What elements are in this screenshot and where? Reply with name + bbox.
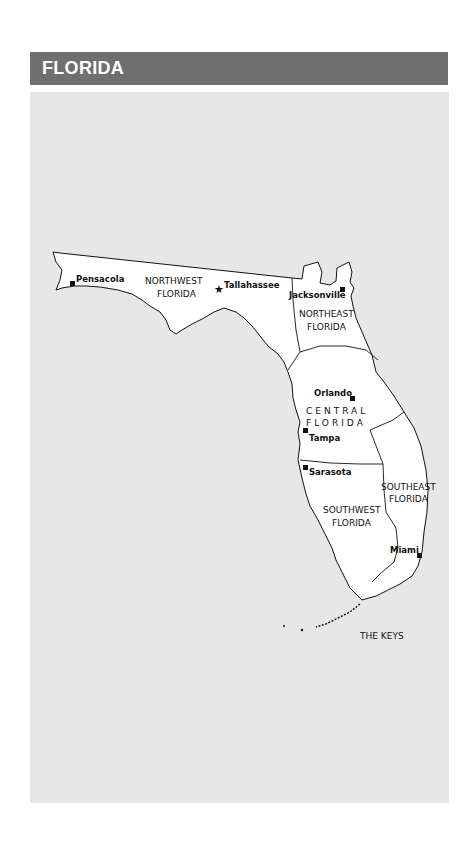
sarasota-marker-icon	[303, 465, 308, 470]
region-label-northwest: NORTHWEST	[145, 276, 203, 286]
region-label-keys: THE KEYS	[359, 631, 404, 641]
city-label-jacksonville: Jacksonville	[288, 290, 346, 300]
region-label-central-2: FLORIDA	[306, 418, 366, 428]
region-label-southwest-2: FLORIDA	[332, 518, 372, 528]
region-label-northeast-2: FLORIDA	[307, 322, 347, 332]
tampa-marker-icon	[303, 428, 308, 433]
florida-map: ★ Pensacola Tallahassee Jacksonville Orl…	[0, 0, 472, 849]
city-label-pensacola: Pensacola	[76, 274, 125, 284]
keys-islet	[301, 629, 303, 631]
region-label-northwest-2: FLORIDA	[157, 289, 197, 299]
region-label-southeast: SOUTHEAST	[381, 482, 436, 492]
region-label-southeast-2: FLORIDA	[389, 494, 429, 504]
city-label-tampa: Tampa	[309, 433, 340, 443]
keys-islands	[316, 604, 360, 627]
tallahassee-star-icon: ★	[214, 283, 224, 295]
region-label-southwest: SOUTHWEST	[323, 505, 381, 515]
city-label-orlando: Orlando	[314, 388, 352, 398]
keys-islet	[283, 625, 285, 627]
pensacola-marker-icon	[70, 281, 75, 286]
city-label-miami: Miami	[390, 545, 419, 555]
city-label-tallahassee: Tallahassee	[224, 280, 280, 290]
city-label-sarasota: Sarasota	[309, 467, 352, 477]
region-label-central: CENTRAL	[306, 406, 368, 416]
region-label-northeast: NORTHEAST	[299, 309, 354, 319]
florida-state-outline	[53, 252, 428, 600]
